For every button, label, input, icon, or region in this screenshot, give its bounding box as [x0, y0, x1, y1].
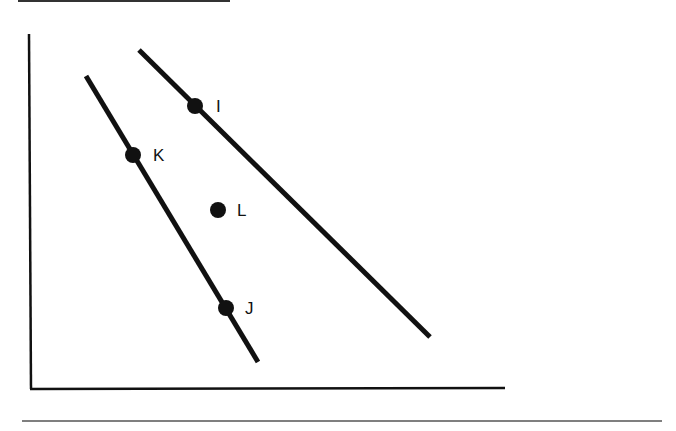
- lines: [86, 50, 430, 362]
- diagram: IKLJ: [0, 0, 676, 431]
- left-line: [86, 76, 258, 362]
- point-label: J: [245, 299, 254, 318]
- point-marker: [210, 202, 226, 218]
- right-line: [139, 50, 430, 337]
- axes: [29, 34, 505, 389]
- point-marker: [125, 147, 141, 163]
- x-axis: [30, 388, 505, 389]
- y-axis: [29, 34, 31, 389]
- point-label: K: [153, 146, 165, 165]
- point-label: L: [237, 201, 246, 220]
- points: IKLJ: [125, 97, 254, 318]
- point-label: I: [216, 97, 221, 116]
- point-marker: [187, 98, 203, 114]
- point-l: L: [210, 201, 246, 220]
- point-marker: [218, 300, 234, 316]
- point-k: K: [125, 146, 165, 165]
- point-j: J: [218, 299, 254, 318]
